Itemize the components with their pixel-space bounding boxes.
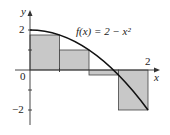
origin-label: 0 <box>20 70 26 82</box>
y-tick-label-2: 2 <box>19 23 25 35</box>
riemann-rectangles <box>30 35 148 110</box>
rect-1 <box>30 35 60 70</box>
y-axis-arrow-icon <box>28 10 33 16</box>
y-tick-label-neg2: −2 <box>12 103 24 115</box>
rect-2 <box>60 50 90 70</box>
x-tick-label-2: 2 <box>145 55 151 67</box>
riemann-sum-diagram: y x 2 −2 0 2 f(x) = 2 − x² <box>0 0 170 135</box>
y-axis-label: y <box>20 5 26 17</box>
x-axis-label: x <box>153 71 159 83</box>
function-label: f(x) = 2 − x² <box>76 25 131 38</box>
